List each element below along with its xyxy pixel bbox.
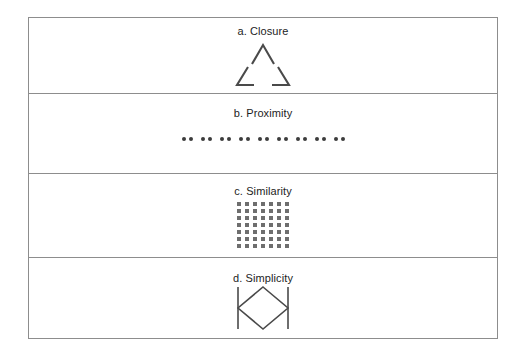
panel-label-proximity: b. Proximity [29,107,497,120]
grid-square [277,230,281,234]
grid-square [269,223,273,227]
panel-label-simplicity: d. Simplicity [29,272,497,285]
grid-square [253,223,257,227]
panel-label-closure: a. Closure [29,25,497,38]
dot [246,137,250,141]
grid-square [253,237,257,241]
dot [341,137,345,141]
figure-frame: a. Closure b. Proximity [28,17,498,339]
dot [189,137,193,141]
panel-proximity: b. Proximity [29,93,497,173]
dot-pair [296,137,307,141]
grid-square [277,223,281,227]
grid-square [253,209,257,213]
dot [322,137,326,141]
grid-square [253,216,257,220]
dot-pair [315,137,326,141]
grid-square [277,202,281,206]
stimulus-closure [29,42,497,88]
dot [220,137,224,141]
grid-square [245,237,249,241]
grid-square [277,209,281,213]
grid-square [269,216,273,220]
grid-square [269,237,273,241]
grid-square [261,230,265,234]
grid-square [261,223,265,227]
dot [303,137,307,141]
dot [296,137,300,141]
grid-square [285,237,289,241]
grid-square [253,244,257,248]
grid-square [277,237,281,241]
grid-square [269,202,273,206]
grid-square [245,216,249,220]
dot [284,137,288,141]
grid-square [245,230,249,234]
grid-square [253,230,257,234]
gestalt-figure-root: a. Closure b. Proximity [0,0,526,359]
grid-square [237,230,241,234]
grid-square [261,216,265,220]
dot [201,137,205,141]
grid-square [285,244,289,248]
dot [258,137,262,141]
grid-square [245,223,249,227]
dot-pair [277,137,288,141]
grid-square [285,209,289,213]
grid-square [237,209,241,213]
dot [227,137,231,141]
grid-square [285,202,289,206]
dot-pair [201,137,212,141]
panel-label-similarity: c. Similarity [29,185,497,198]
grid-square [285,216,289,220]
grid-square [261,244,265,248]
grid-square [261,237,265,241]
grid-square [237,244,241,248]
grid-square [237,216,241,220]
dot-pair [182,137,193,141]
grid-square [245,209,249,213]
grid-square [245,202,249,206]
dot [315,137,319,141]
grid-square [285,223,289,227]
stimulus-similarity [29,202,497,248]
dot [182,137,186,141]
stimulus-proximity [29,137,497,141]
grid-square [269,230,273,234]
dot-pair [239,137,250,141]
panel-closure: a. Closure [29,18,497,93]
illusory-triangle-icon [225,42,301,88]
dot-pair [258,137,269,141]
diamond-between-bars-icon [232,285,294,331]
grid-square [237,202,241,206]
dot-row [182,137,345,141]
grid-square [269,209,273,213]
panel-similarity: c. Similarity [29,173,497,257]
panel-simplicity: d. Simplicity [29,257,497,338]
grid-square [253,202,257,206]
grid-square [237,237,241,241]
grid-square [269,244,273,248]
dot-pair [334,137,345,141]
stimulus-simplicity [29,285,497,331]
dot [265,137,269,141]
grid-square [261,209,265,213]
dot [208,137,212,141]
grid-square [245,244,249,248]
dot-pair [220,137,231,141]
grid-square [261,202,265,206]
grid-square [277,244,281,248]
grid-square [285,230,289,234]
grid-square [277,216,281,220]
dot [334,137,338,141]
dot [277,137,281,141]
dot [239,137,243,141]
square-grid [237,202,289,248]
grid-square [237,223,241,227]
